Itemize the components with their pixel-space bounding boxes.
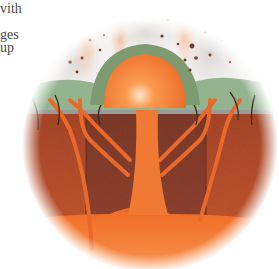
- volcano-cross-section-illustration: [0, 0, 279, 269]
- text-line-4: up: [0, 41, 40, 54]
- page-text-fragment: vith ges up: [0, 2, 40, 54]
- text-line-1: vith: [0, 2, 40, 15]
